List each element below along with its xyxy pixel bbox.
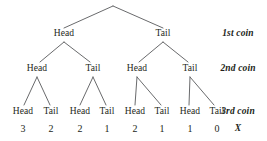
node-level3-head-3[interactable]: Head (125, 106, 145, 117)
outcome-value-7: 1 (188, 123, 193, 134)
node-level2-head-1[interactable]: Head (27, 63, 47, 74)
node-level3-head-4[interactable]: Head (180, 106, 200, 117)
tree-edge-7 (24, 77, 37, 105)
row-label-outcome-variable: X (235, 123, 242, 134)
node-level3-tail-1[interactable]: Tail (43, 106, 58, 117)
node-level3-head-2[interactable]: Head (70, 106, 90, 117)
tree-edge-6 (163, 42, 188, 62)
node-level2-head-2[interactable]: Head (127, 63, 147, 74)
node-level2-tail-2[interactable]: Tail (182, 63, 197, 74)
probability-tree-figure: Head Tail Head Tail Head Tail Head Tail … (0, 0, 267, 141)
tree-edge-3 (40, 42, 64, 62)
tree-edge-1 (64, 6, 113, 28)
node-level1-tail[interactable]: Tail (155, 28, 170, 39)
tree-edge-8 (37, 77, 50, 105)
outcome-value-6: 1 (160, 123, 165, 134)
outcome-value-5: 2 (133, 123, 138, 134)
tree-edge-2 (113, 6, 163, 28)
tree-edge-9 (80, 77, 93, 105)
outcome-value-4: 1 (105, 123, 110, 134)
outcome-value-8: 0 (215, 123, 220, 134)
tree-edge-10 (93, 77, 106, 105)
node-level3-tail-2[interactable]: Tail (99, 106, 114, 117)
node-level3-head-1[interactable]: Head (13, 106, 33, 117)
tree-edge-13 (189, 77, 190, 105)
row-label-second-coin: 2nd coin (220, 63, 255, 74)
row-label-third-coin: 3rd coin (221, 106, 255, 117)
outcome-value-2: 2 (49, 123, 54, 134)
tree-edge-5 (139, 42, 163, 62)
node-level2-tail-1[interactable]: Tail (85, 63, 100, 74)
tree-edge-4 (64, 42, 90, 62)
node-level1-head[interactable]: Head (54, 28, 74, 39)
tree-edge-12 (137, 77, 161, 105)
outcome-value-1: 3 (21, 123, 26, 134)
row-label-first-coin: 1st coin (222, 28, 254, 39)
outcome-value-3: 2 (78, 123, 83, 134)
tree-edge-11 (135, 77, 137, 105)
node-level3-tail-3[interactable]: Tail (154, 106, 169, 117)
tree-edge-14 (190, 77, 214, 105)
